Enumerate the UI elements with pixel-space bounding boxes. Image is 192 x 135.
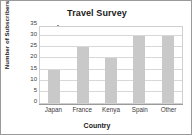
x-axis-line (39, 104, 183, 105)
x-axis-label: Country (1, 122, 192, 129)
chart-title: Travel Survey (1, 8, 192, 18)
x-tick-label: Spain (126, 106, 154, 113)
y-tick-label: 15 (21, 65, 37, 71)
bar (77, 47, 89, 103)
bar-series (40, 27, 182, 103)
x-tick-label: France (68, 106, 96, 113)
y-tick-label: 30 (21, 31, 37, 37)
y-tick-label: 35 (21, 20, 37, 26)
bar (105, 58, 117, 103)
y-tick-label: 20 (21, 53, 37, 59)
plot-area (39, 26, 183, 104)
x-tick-label: Japan (39, 106, 67, 113)
y-tick-label: 10 (21, 76, 37, 82)
y-tick-label: 25 (21, 42, 37, 48)
y-tick-label: 5 (21, 87, 37, 93)
x-axis-tick-labels: JapanFranceKenyaSpainOther (39, 106, 183, 113)
chart-figure: Travel Survey Number of Subscribers 0510… (0, 0, 192, 135)
y-axis-label: Number of Subscribers (1, 0, 13, 77)
y-tick-label: 0 (21, 98, 37, 104)
y-axis-tick-labels: 05101520253035 (21, 26, 37, 104)
bar (133, 36, 145, 103)
bar (48, 70, 60, 103)
x-tick-label: Other (155, 106, 183, 113)
x-tick-label: Kenya (97, 106, 125, 113)
bar (162, 36, 174, 103)
